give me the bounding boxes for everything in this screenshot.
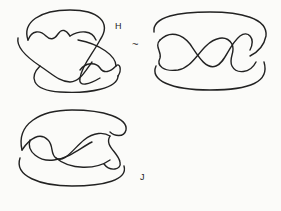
knot-j-label: J bbox=[140, 172, 145, 182]
equivalence-symbol: ~ bbox=[132, 38, 138, 50]
knot-h-diagram bbox=[18, 10, 120, 92]
knot-h-label: H bbox=[115, 21, 122, 31]
knot-j-diagram bbox=[19, 110, 126, 186]
knot-middle-diagram bbox=[154, 12, 266, 90]
